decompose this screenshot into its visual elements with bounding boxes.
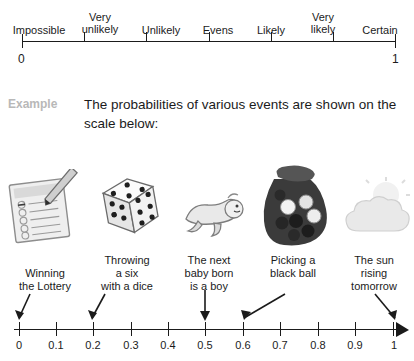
example-description: The probabilities of various events are … [84,95,404,133]
numeric-scale-label-5: 0.5 [192,339,218,351]
bag-of-balls-icon [256,161,332,247]
scale-word-very-likely: Very likely [297,11,349,35]
word-scale-tick-5 [333,32,334,41]
scale-word-very-unlikely: Very unlikely [72,11,128,35]
numeric-scale-label-3: 0.3 [118,339,144,351]
numeric-scale-axis-line [14,329,400,330]
numeric-scale-label-4: 0.4 [155,339,181,351]
dice-icon [92,171,166,243]
numeric-scale-tick-7 [280,322,281,336]
event-illustrations [0,155,414,265]
numeric-scale-label-2: 0.2 [80,339,106,351]
numeric-scale-tick-5 [205,322,206,336]
numeric-scale-label-10: 1 [384,339,404,351]
numeric-scale-tick-3 [131,322,132,336]
word-scale-tick-2 [146,32,147,41]
numeric-scale-tick-1 [56,322,57,336]
word-scale-tick-1 [84,32,85,41]
numeric-scale-tick-2 [93,322,94,336]
numeric-scale-end-arrow [396,322,410,338]
word-scale-label-zero: 0 [18,52,25,66]
scale-word-evens: Evens [194,24,242,36]
numeric-probability-scale: 0 0.1 0.2 0.3 0.4 0.5 0.6 0.7 0.8 0.9 1 [0,320,414,361]
numeric-scale-tick-8 [318,322,319,336]
numeric-scale-label-9: 0.9 [342,339,368,351]
sun-cloud-icon [336,177,412,243]
word-scale-tick-0 [22,34,23,48]
word-scale-tick-3 [209,32,210,41]
numeric-scale-label-0: 0 [9,339,29,351]
numeric-scale-label-7: 0.7 [267,339,293,351]
numeric-scale-tick-10 [393,322,394,336]
numeric-scale-label-1: 0.1 [43,339,69,351]
word-scale-tick-4 [271,32,272,41]
word-scale-label-one: 1 [392,52,399,66]
numeric-scale-tick-4 [168,322,169,336]
scale-word-impossible: Impossible [8,24,70,36]
numeric-scale-tick-6 [243,322,244,336]
word-scale-axis-line [22,41,396,42]
numeric-scale-tick-0 [19,322,20,336]
probability-word-scale: Impossible Very unlikely Unlikely Evens … [0,0,414,86]
example-tag: Example [8,97,57,111]
scale-word-unlikely: Unlikely [133,24,189,36]
lottery-ticket-icon [6,169,84,245]
numeric-scale-tick-9 [355,322,356,336]
baby-icon [174,179,250,239]
scale-word-certain: Certain [352,24,408,36]
word-scale-tick-6 [395,34,396,48]
numeric-scale-label-8: 0.8 [305,339,331,351]
numeric-scale-label-6: 0.6 [230,339,256,351]
event-probability-arrows [0,272,414,324]
